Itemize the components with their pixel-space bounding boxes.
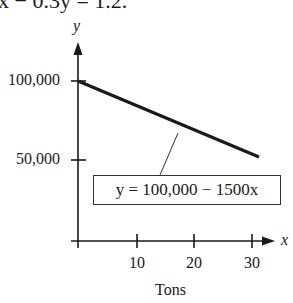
data-line [78,81,259,157]
y-axis-label: y [73,17,80,35]
x-tick-label-20: 20 [186,254,202,272]
y-tick-label-100000: 100,000 [8,71,60,89]
annotation-leader [160,133,178,175]
x-axis-label: x [281,231,288,249]
x-axis-title: Tons [155,281,186,299]
equation-annotation-box: y = 100,000 − 1500x [93,175,281,205]
x-tick-label-30: 30 [244,254,260,272]
x-tick-label-10: 10 [129,254,145,272]
y-tick-label-50000: 50,000 [16,150,60,168]
y-axis-arrow-icon [74,42,83,55]
equation-text: y = 100,000 − 1500x [116,180,258,199]
x-axis-arrow-icon [262,237,275,246]
